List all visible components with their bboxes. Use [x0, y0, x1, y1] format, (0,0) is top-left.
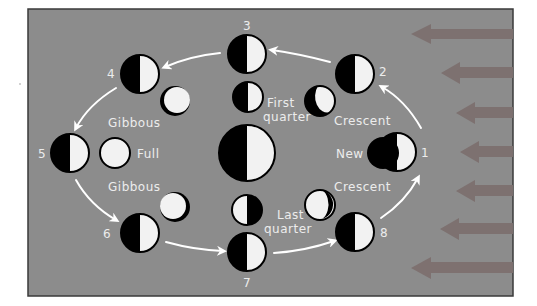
position-number-8: 8 [380, 226, 388, 240]
label-crescent-waxing: Crescent [334, 114, 391, 128]
position-number-1: 1 [421, 146, 429, 160]
last-quarter-icon [232, 195, 262, 225]
speck [19, 83, 21, 85]
label-gibbous-waxing: Gibbous [108, 116, 161, 130]
label-first-quarter-1: First [267, 96, 295, 110]
label-last-quarter-1: Last [277, 208, 304, 222]
orbit-moon-3 [228, 35, 266, 73]
position-number-4: 4 [107, 67, 115, 81]
position-number-2: 2 [379, 65, 387, 79]
label-first-quarter-2: quarter [263, 110, 311, 124]
position-number-6: 6 [103, 227, 111, 241]
position-number-5: 5 [38, 147, 46, 161]
label-gibbous-waning: Gibbous [108, 180, 161, 194]
orbit-moon-6 [121, 214, 159, 252]
label-crescent-waning: Crescent [334, 180, 391, 194]
label-full: Full [137, 147, 160, 161]
orbit-moon-4 [121, 55, 159, 93]
orbit-moon-5 [51, 134, 89, 172]
first-quarter-icon [233, 82, 263, 112]
label-new: New [336, 147, 364, 161]
orbit-moon-8 [336, 213, 374, 251]
orbit-moon-2 [336, 55, 374, 93]
waxing-gibbous-icon [160, 86, 190, 116]
moon-phases-diagram: 1 2 3 4 5 6 7 8 New Crescent First quart… [0, 0, 537, 306]
position-number-3: 3 [243, 19, 251, 33]
waning-gibbous-icon [160, 192, 190, 222]
orbit-moon-7 [228, 233, 266, 271]
earth-icon [219, 125, 275, 181]
new-moon-icon [367, 137, 399, 169]
label-last-quarter-2: quarter [264, 222, 312, 236]
waning-crescent-icon [305, 190, 335, 220]
full-moon-icon [100, 138, 130, 168]
position-number-7: 7 [243, 276, 251, 290]
